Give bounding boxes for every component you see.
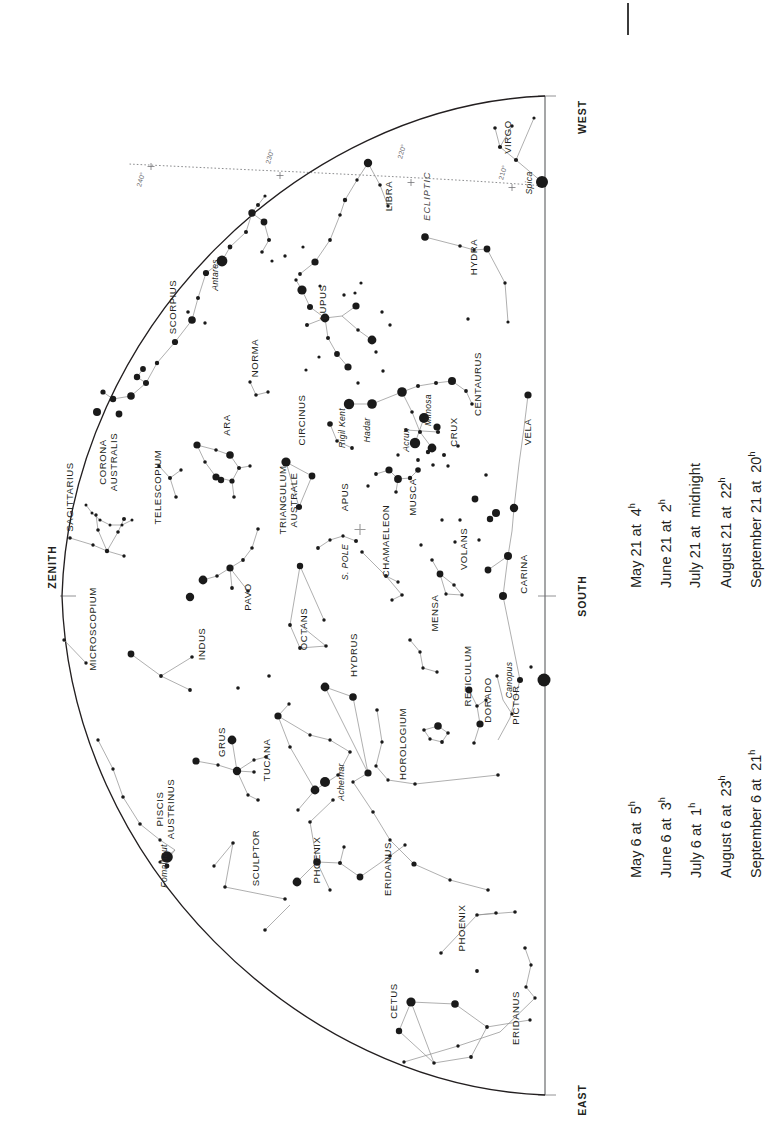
legend-time: 22h	[718, 477, 733, 498]
legend-lower-row: August 6 at 23h	[718, 775, 733, 878]
constellation-label: TELESCOPIUM	[152, 450, 163, 525]
constellation-label: ERIDANUS	[510, 991, 521, 1045]
legend-upper: May 21 at 4hJune 21 at 2hJuly 21 at midn…	[600, 340, 779, 590]
constellation-label: MUSCA	[407, 478, 418, 515]
constellation-label: NORMA	[249, 339, 260, 378]
constellation-label: VELA	[522, 419, 533, 446]
constellation-label: ARA	[221, 414, 232, 435]
constellation-label: MENSA	[429, 595, 440, 632]
star-name-label: Rigil Kent	[337, 408, 347, 448]
constellation-label: CENTAURUS	[472, 352, 483, 416]
constellation-label: PHOENIX	[456, 904, 467, 951]
star-name-label: Acrux	[401, 428, 411, 453]
svg-text:AUSTRALIS: AUSTRALIS	[108, 433, 119, 491]
legend-time: 23h	[718, 775, 733, 796]
star-name-label: Hadar	[362, 417, 372, 443]
constellation-label: MICROSCOPIUM	[87, 587, 98, 670]
star-name-label: Fomalhaut	[159, 844, 169, 888]
legend-upper-row: June 21 at 2h	[658, 499, 673, 588]
legend-time: 21h	[748, 750, 763, 771]
legend-date: August 6 at	[719, 805, 734, 878]
constellation-label: HYDRUS	[348, 633, 359, 677]
legend-time: 2h	[658, 499, 673, 512]
ecliptic-line	[128, 164, 545, 186]
constellation-label: LUPUS	[317, 285, 328, 320]
constellation-label: APUS	[339, 483, 350, 511]
legend-date: September 6 at	[749, 779, 764, 878]
star-chart-page: VIRGOLIBRAHYDRASCORPIUSLUPUSNORMACENTAUR…	[0, 0, 779, 1130]
legend-time: midnight	[688, 463, 703, 518]
legend-upper-row: September 21 at 20h	[748, 452, 763, 588]
constellation-label: HOROLOGIUM	[397, 708, 408, 780]
constellation-label: SCORPIUS	[167, 280, 178, 335]
star-name-label: Mimosa	[423, 394, 433, 426]
constellation-label: CHAMAELEON	[380, 505, 391, 578]
svg-text:PISCIS: PISCIS	[154, 792, 165, 827]
legend-time: 1h	[688, 803, 703, 816]
constellation-label: PHOENIX	[311, 836, 322, 883]
svg-text:CORONA: CORONA	[97, 439, 108, 484]
constellation-label: LIBRA	[383, 181, 394, 212]
constellation-label: DORADO	[482, 677, 493, 722]
legend-time: 4h	[628, 503, 643, 516]
south-pole-marker	[355, 524, 366, 535]
legend-upper-row: July 21 at midnight	[688, 463, 703, 588]
constellation-label: OCTANS	[298, 608, 309, 651]
star-name-label: Antares	[210, 259, 220, 292]
constellation-label: VIRGO	[502, 120, 513, 154]
svg-text:TRIANGULUM: TRIANGULUM	[277, 466, 288, 535]
legend-lower-row: May 6 at 5h	[628, 801, 643, 878]
legend-date: August 21 at	[719, 507, 734, 588]
constellation-label: SAGITTARIUS	[64, 462, 75, 531]
legend-date: May 6 at	[629, 822, 644, 878]
ecliptic-label: ECLIPTIC	[422, 171, 432, 220]
star-name-label: Canopus	[504, 661, 514, 698]
cardinal-label-east: EAST	[576, 1084, 588, 1116]
constellation-label: RETICULUM	[462, 646, 473, 707]
legend-date: June 21 at	[659, 520, 674, 588]
legend-time: 3h	[658, 797, 673, 810]
legend-lower-row: July 6 at 1h	[688, 803, 703, 878]
legend-upper-row: May 21 at 4h	[628, 503, 643, 588]
cardinal-label-south: SOUTH	[576, 575, 588, 616]
legend-date: June 6 at	[659, 818, 674, 878]
legend-time: 5h	[628, 801, 643, 814]
constellation-label: CETUS	[388, 983, 399, 1018]
constellation-label: HYDRA	[468, 239, 479, 275]
constellation-label: GRUS	[216, 727, 227, 757]
legend-date: July 6 at	[689, 824, 704, 878]
south-pole-label: S. POLE	[340, 544, 350, 580]
legend-date: May 21 at	[629, 524, 644, 588]
legend-upper-row: August 21 at 22h	[718, 477, 733, 588]
constellation-label: CRUX	[448, 417, 459, 446]
constellation-label: VOLANS	[458, 528, 469, 570]
legend-lower: May 6 at 5hJune 6 at 3hJuly 6 at 1hAugus…	[600, 630, 779, 890]
constellation-label: PISCISAUSTRINUS	[154, 779, 176, 839]
legend-date: July 21 at	[688, 526, 703, 588]
constellation-label: TUCANA	[261, 739, 272, 782]
ecliptic-degree-label: 240°	[135, 171, 146, 187]
ecliptic-degree-ticks	[148, 163, 516, 191]
svg-text:AUSTRINUS: AUSTRINUS	[165, 779, 176, 839]
cardinal-label-west: WEST	[576, 100, 588, 134]
constellation-label: PAVO	[242, 583, 253, 610]
ecliptic-degree-label: 210°	[497, 164, 508, 180]
cardinal-label-zenith: ZENITH	[46, 545, 58, 588]
legend-date: September 21 at	[749, 481, 764, 588]
legend-lower-row: September 6 at 21h	[748, 750, 763, 878]
constellation-label: INDUS	[196, 628, 207, 661]
constellation-label: SCULPTOR	[250, 830, 261, 886]
constellation-label: ERIDANUS	[382, 842, 393, 896]
ecliptic-degree-label: 220°	[396, 143, 407, 159]
constellation-label: CARINA	[518, 554, 529, 594]
star-name-label: Achernar	[336, 763, 346, 802]
legend-lower-row: June 6 at 3h	[658, 797, 673, 878]
svg-text:AUSTRALE: AUSTRALE	[288, 472, 299, 527]
chart-labels: VIRGOLIBRAHYDRASCORPIUSLUPUSNORMACENTAUR…	[46, 100, 588, 1116]
constellation-label: TRIANGULUMAUSTRALE	[277, 466, 299, 535]
legend-time: 20h	[748, 452, 763, 473]
constellation-label: CIRCINUS	[296, 395, 307, 446]
star-name-label: Spica	[524, 172, 534, 195]
constellation-label: CORONAAUSTRALIS	[97, 433, 119, 491]
ecliptic-degree-label: 230°	[264, 148, 275, 164]
